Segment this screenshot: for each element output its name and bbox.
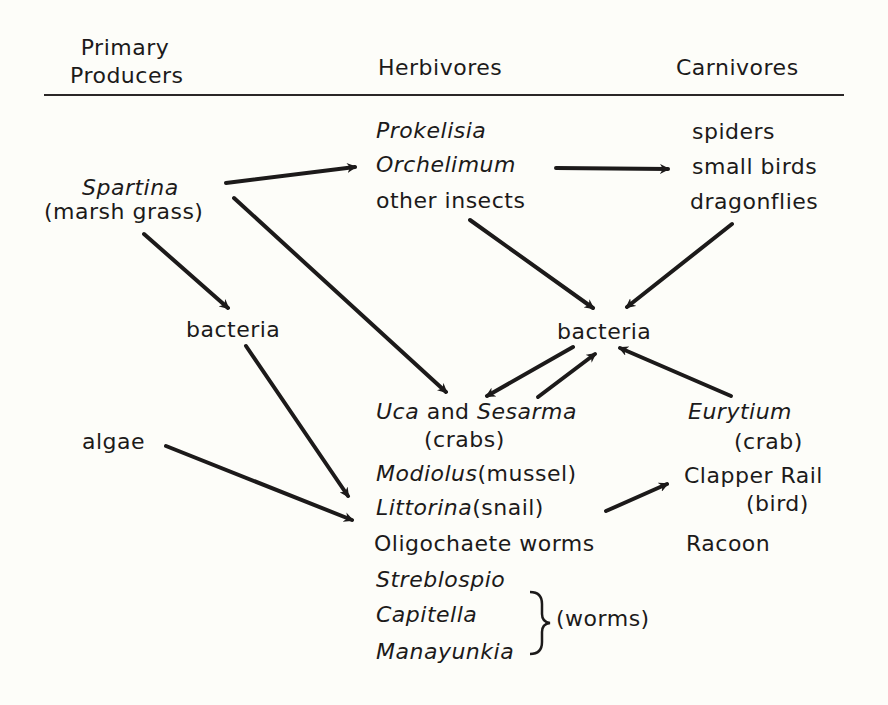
arrow-spartina-to-uca [234, 198, 446, 392]
arrow-insects-to-bacteria [470, 220, 593, 308]
arrow-littorina-to-clapper-rail [606, 484, 667, 511]
arrow-spartina-to-bacteria [144, 234, 228, 308]
worms-brace [530, 592, 550, 654]
arrow-bacteria-to-bivalves [246, 346, 348, 496]
arrow-spartina-to-insects [226, 167, 355, 183]
food-web-arrows [0, 0, 888, 705]
arrow-algae-to-littorina [166, 446, 352, 520]
arrow-eurytium-to-bacteria [620, 348, 731, 396]
arrow-dragonflies-to-bacteria [627, 224, 732, 307]
arrow-insects-to-predators [556, 168, 668, 169]
arrow-bacteria-to-uca [487, 347, 573, 396]
